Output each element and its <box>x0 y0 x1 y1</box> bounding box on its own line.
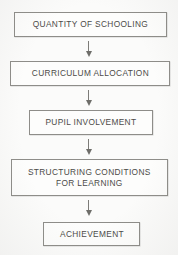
flow-node-pupil-involvement: PUPIL INVOLVEMENT <box>29 110 153 135</box>
arrow-head <box>86 51 92 57</box>
down-arrow-icon-1 <box>83 41 95 57</box>
arrow-head <box>86 149 92 155</box>
flow-node-label: STRUCTURING CONDITIONS FOR LEARNING <box>26 167 153 188</box>
flow-node-label: ACHIEVEMENT <box>58 229 126 240</box>
flow-node-label: QUANTITY OF SCHOOLING <box>31 19 150 30</box>
arrow-head <box>86 100 92 106</box>
flow-node-curriculum-allocation: CURRICULUM ALLOCATION <box>10 61 170 86</box>
down-arrow-icon-3 <box>83 139 95 155</box>
flow-node-achievement: ACHIEVEMENT <box>43 222 140 246</box>
flow-node-quantity-of-schooling: QUANTITY OF SCHOOLING <box>14 12 167 37</box>
flowchart-diagram: QUANTITY OF SCHOOLING CURRICULUM ALLOCAT… <box>0 0 178 255</box>
flow-node-label: PUPIL INVOLVEMENT <box>44 117 139 128</box>
down-arrow-icon-2 <box>83 90 95 106</box>
down-arrow-icon-4 <box>83 200 95 216</box>
flow-node-label: CURRICULUM ALLOCATION <box>29 68 150 79</box>
arrow-head <box>86 210 92 216</box>
flow-node-structuring-conditions: STRUCTURING CONDITIONS FOR LEARNING <box>11 159 168 196</box>
